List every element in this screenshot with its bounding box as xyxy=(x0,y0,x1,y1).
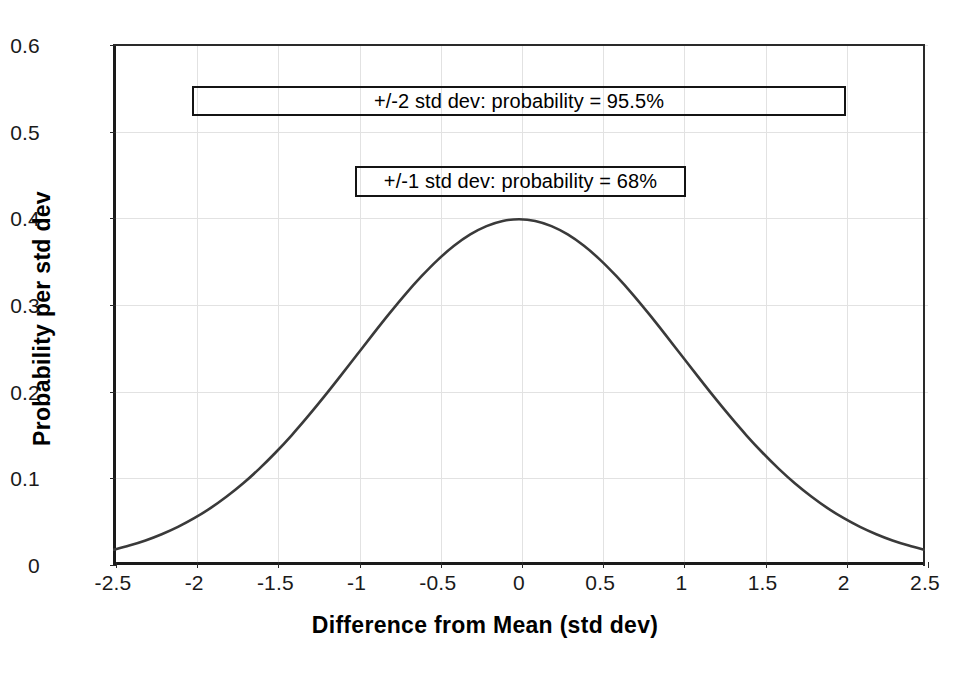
x-tick-label: 1.5 xyxy=(728,572,798,593)
x-tick-label: 2.5 xyxy=(890,572,960,593)
normal-distribution-chart: 00.10.20.30.40.50.6 -2.5-2-1.5-1-0.500.5… xyxy=(0,0,970,677)
x-tick-label: -1 xyxy=(322,572,392,593)
x-tick-label: -0.5 xyxy=(403,572,473,593)
x-tick-label: 0 xyxy=(484,572,554,593)
y-tick-label: 0 xyxy=(0,555,40,576)
annotation-two-std-dev-label: +/-2 std dev: probability = 95.5% xyxy=(374,90,664,113)
x-tick-label: 1 xyxy=(646,572,716,593)
y-tick-label: 0.6 xyxy=(0,35,40,56)
x-tick-label: -1.5 xyxy=(240,572,310,593)
tick-x xyxy=(928,562,929,568)
annotation-one-std-dev: +/-1 std dev: probability = 68% xyxy=(355,166,686,197)
x-tick-label: -2.5 xyxy=(78,572,148,593)
x-axis-title: Difference from Mean (std dev) xyxy=(0,612,970,639)
x-tick-label: 2 xyxy=(809,572,879,593)
annotation-two-std-dev: +/-2 std dev: probability = 95.5% xyxy=(192,86,846,116)
x-tick-label: -2 xyxy=(159,572,229,593)
normal-curve xyxy=(113,45,925,565)
x-tick-label: 0.5 xyxy=(565,572,635,593)
annotation-one-std-dev-label: +/-1 std dev: probability = 68% xyxy=(384,170,657,193)
y-axis-title: Probability per std dev xyxy=(29,109,56,529)
